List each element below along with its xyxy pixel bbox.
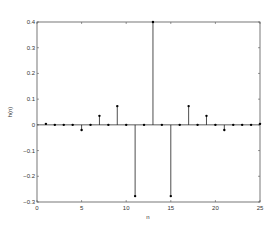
stem-marker (241, 124, 243, 126)
y-tick-label: 0.2 (27, 70, 36, 76)
stem-marker (161, 124, 163, 126)
x-tick-label: 0 (35, 205, 39, 211)
stem-marker (205, 115, 207, 117)
stem-marker (71, 124, 73, 126)
y-tick-label: 0.3 (27, 45, 36, 51)
y-tick-label: −0.2 (23, 173, 36, 179)
y-tick-label: 0.4 (27, 19, 36, 25)
y-tick-label: 0 (32, 122, 36, 128)
stem-marker (250, 124, 252, 126)
stem-marker (80, 129, 82, 131)
stem-marker (152, 21, 154, 23)
stem-marker (107, 124, 109, 126)
stem-marker (125, 124, 127, 126)
plot-area (37, 22, 260, 202)
x-tick-label: 20 (212, 205, 219, 211)
stem-marker (232, 124, 234, 126)
stem-marker (170, 195, 172, 197)
y-tick-label: −0.1 (23, 148, 36, 154)
stem-marker (196, 124, 198, 126)
stem-marker (89, 124, 91, 126)
stem-marker (214, 124, 216, 126)
x-tick-label: 10 (123, 205, 130, 211)
stem-marker (54, 124, 56, 126)
stem-chart: 0510152025−0.3−0.2−0.100.10.20.30.4 n h(… (0, 0, 274, 227)
stem-marker (223, 129, 225, 131)
x-tick-label: 25 (257, 205, 264, 211)
stem-marker (45, 123, 47, 125)
stem-marker (187, 105, 189, 107)
x-axis-label: n (146, 214, 149, 220)
x-tick-label: 15 (167, 205, 174, 211)
stem-marker (259, 123, 261, 125)
y-axis-label: h(n) (7, 107, 13, 118)
stem-marker (179, 124, 181, 126)
stem-marker (134, 195, 136, 197)
stem-marker (98, 115, 100, 117)
stem-marker (143, 124, 145, 126)
x-tick-label: 5 (80, 205, 84, 211)
y-tick-label: −0.3 (23, 199, 36, 205)
y-tick-label: 0.1 (27, 96, 36, 102)
stem-marker (63, 124, 65, 126)
stem-marker (116, 105, 118, 107)
